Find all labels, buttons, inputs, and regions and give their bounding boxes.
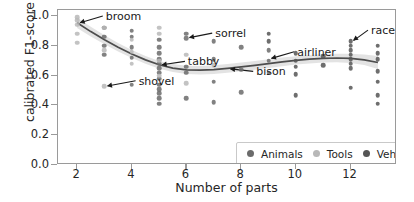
scatter-point [184,81,189,86]
x-tick-label: 4 [127,167,134,181]
annotation-arrow [354,30,369,40]
x-tick-mark [295,164,296,169]
annotation-arrowhead [353,36,359,41]
annotation-arrow [80,16,103,23]
scatter-point [294,72,299,77]
annotation-arrow [162,61,185,64]
scatter-point [294,58,299,63]
legend-marker-icon [363,150,370,157]
scatter-point [102,52,107,57]
legend-item-vehicles[interactable]: Vehicles [353,148,396,160]
x-tick-label: 6 [182,167,189,181]
scatter-point [157,102,162,107]
annotation-sorrel: sorrel [215,27,246,40]
scatter-point [212,100,217,105]
y-tick-label: 0.8 [9,38,49,52]
scatter-point [157,26,162,31]
y-tick-label: 1.0 [9,8,49,22]
y-tick-label: 0.6 [9,68,49,82]
annotation-broom: broom [106,9,141,22]
legend-marker-icon [313,150,320,157]
scatter-point [376,102,381,107]
scatter-point [130,61,135,66]
x-tick-label: 12 [342,167,357,181]
annotation-arrow [190,33,213,38]
scatter-point [157,32,162,37]
scatter-point [102,48,107,53]
scatter-point [157,45,162,50]
annotation-tabby: tabby [188,55,220,68]
scatter-point [239,90,244,95]
legend-marker-icon [247,150,254,157]
annotation-arrowhead [80,19,86,24]
scatter-point [102,26,107,31]
scatter-point [376,51,381,56]
annotation-bison: bison [256,65,285,78]
scatter-point [294,93,299,98]
x-tick-mark [76,164,77,169]
annotation-arrowhead [162,62,167,67]
scatter-point [212,39,217,44]
y-tick-label: 0.4 [9,97,49,111]
legend-label: Tools [327,148,353,160]
legend-label: Vehicles [377,148,396,160]
x-tick-mark [185,164,186,169]
annotation-racer: racer [371,24,396,37]
scatter-point [239,67,244,72]
x-tick-mark [350,164,351,169]
scatter-point [294,64,299,69]
x-tick-label: 10 [288,167,303,181]
annotation-arrowhead [189,34,194,39]
x-tick-mark [131,164,132,169]
annotation-arrowhead [271,55,277,60]
x-tick-label: 2 [72,167,79,181]
y-tick-label: 0.2 [9,127,49,141]
scatter-point [184,36,189,41]
annotation-arrowhead [107,83,112,88]
scatter-point [376,69,381,74]
scatter-point [266,58,271,63]
scatter-point [348,66,353,71]
scatter-point [130,55,135,60]
scatter-point [75,23,80,28]
scatter-point [157,38,162,43]
y-tick-label: 0.0 [9,157,49,171]
scatter-point [376,43,381,48]
plot-area: broomshoveltabbysorrelbisonairlinerracer… [57,9,396,164]
scatter-point [376,93,381,98]
scatter-point [348,85,353,90]
annotation-arrowhead [230,67,235,72]
legend[interactable]: AnimalsToolsVehicles [236,142,396,164]
scatter-point [157,58,162,63]
y-tick-mark [51,164,57,165]
scatter-point [130,49,135,54]
scatter-point [102,84,107,89]
scatter-point [376,79,381,84]
scatter-point [266,32,271,37]
scatter-point [130,29,135,34]
figure: calibrated F1-score Number of parts 0.00… [0,0,414,202]
scatter-point [212,79,217,84]
scatter-point [75,32,80,37]
legend-item-tools[interactable]: Tools [303,148,353,160]
x-tick-label: 8 [236,167,243,181]
scatter-point [239,45,244,50]
scatter-point [266,39,271,44]
scatter-point [130,82,135,87]
annotation-airliner: airliner [297,45,336,58]
scatter-point [102,35,107,40]
scatter-point [130,38,135,43]
scatter-point [184,96,189,101]
x-tick-mark [240,164,241,169]
annotation-shovel: shovel [139,74,175,87]
scatter-point [75,40,80,45]
x-axis-label: Number of parts [57,180,396,195]
scatter-point [321,63,326,68]
scatter-point [184,70,189,75]
legend-label: Animals [261,148,303,160]
scatter-point [266,48,271,53]
scatter-point [157,51,162,56]
legend-item-animals[interactable]: Animals [237,148,303,160]
scatter-point [376,57,381,62]
scatter-point [157,96,162,101]
